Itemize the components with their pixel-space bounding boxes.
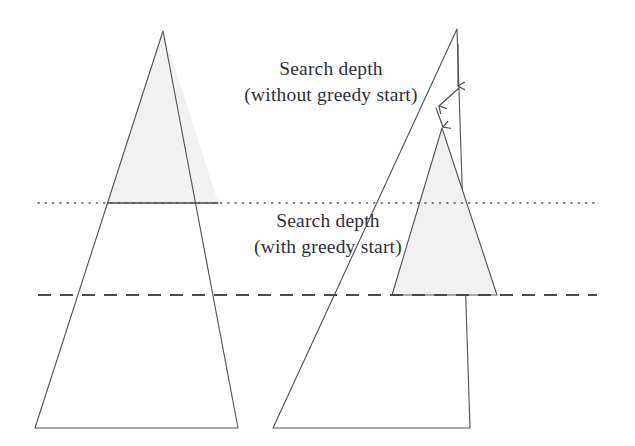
- search-depth-diagram: Search depth (without greedy start) Sear…: [0, 0, 635, 446]
- caption-with-greedy-line1: Search depth: [222, 208, 434, 234]
- caption-with-greedy-start: Search depth (with greedy start): [222, 208, 434, 260]
- left-tree-shaded-region: [108, 31, 219, 203]
- greedy-descent-arrow-3: [436, 108, 443, 127]
- caption-without-greedy-line1: Search depth: [225, 56, 437, 82]
- left-tree-outline: [35, 31, 238, 428]
- greedy-descent-arrow-2: [439, 88, 459, 106]
- left-search-tree-group: [35, 31, 238, 428]
- caption-without-greedy-start: Search depth (without greedy start): [225, 56, 437, 108]
- caption-without-greedy-line2: (without greedy start): [225, 82, 437, 108]
- caption-with-greedy-line2: (with greedy start): [222, 234, 434, 260]
